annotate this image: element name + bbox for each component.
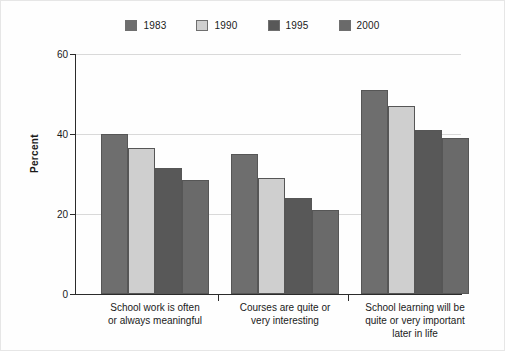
- bar-group-2: [231, 54, 339, 294]
- bar-2000-group1: [182, 180, 209, 294]
- bar-1995-group1: [155, 168, 182, 294]
- category-label-line: quite or very important: [335, 314, 495, 327]
- category-label-3: School learning will bequite or very imp…: [335, 301, 495, 340]
- bar-1995-group2: [285, 198, 312, 294]
- x-axis-separator-tick-2: [348, 294, 349, 301]
- legend-label: 1995: [286, 20, 309, 31]
- legend-swatch-icon: [339, 20, 351, 31]
- x-axis-line: [75, 294, 462, 295]
- legend-item-2000: 2000: [339, 20, 380, 31]
- y-tick-60: [70, 54, 76, 55]
- y-tick-20: [70, 214, 76, 215]
- bar-1995-group3: [415, 130, 442, 294]
- bar-1983-group2: [231, 154, 258, 294]
- y-tick-label: 0: [62, 289, 68, 300]
- y-tick-label: 60: [57, 49, 68, 60]
- legend-label: 2000: [357, 20, 380, 31]
- bar-1983-group3: [361, 90, 388, 294]
- plot-area: 0204060: [76, 54, 461, 294]
- legend-label: 1990: [214, 20, 237, 31]
- y-tick-40: [70, 134, 76, 135]
- y-axis-line: [75, 54, 76, 295]
- bar-group-1: [101, 54, 209, 294]
- legend-label: 1983: [143, 20, 166, 31]
- bar-group-3: [361, 54, 469, 294]
- legend-swatch-icon: [125, 20, 137, 31]
- legend-item-1995: 1995: [268, 20, 309, 31]
- legend-item-1990: 1990: [196, 20, 237, 31]
- bar-1990-group1: [128, 148, 155, 294]
- y-axis-title: Percent: [29, 134, 40, 173]
- y-tick-label: 40: [57, 129, 68, 140]
- y-tick-label: 20: [57, 209, 68, 220]
- chart-legend: 1983199019952000: [1, 17, 504, 33]
- legend-swatch-icon: [196, 20, 208, 31]
- x-axis-separator-tick-1: [218, 294, 219, 301]
- bar-1990-group2: [258, 178, 285, 294]
- bar-1983-group1: [101, 134, 128, 294]
- bar-2000-group2: [312, 210, 339, 294]
- chart-page: 1983199019952000 0204060 Percent School …: [0, 0, 505, 351]
- category-label-line: later in life: [335, 327, 495, 340]
- bar-1990-group3: [388, 106, 415, 294]
- legend-item-1983: 1983: [125, 20, 166, 31]
- bar-2000-group3: [442, 138, 469, 294]
- legend-swatch-icon: [268, 20, 280, 31]
- category-label-line: School learning will be: [335, 301, 495, 314]
- y-tick-0: [70, 294, 76, 295]
